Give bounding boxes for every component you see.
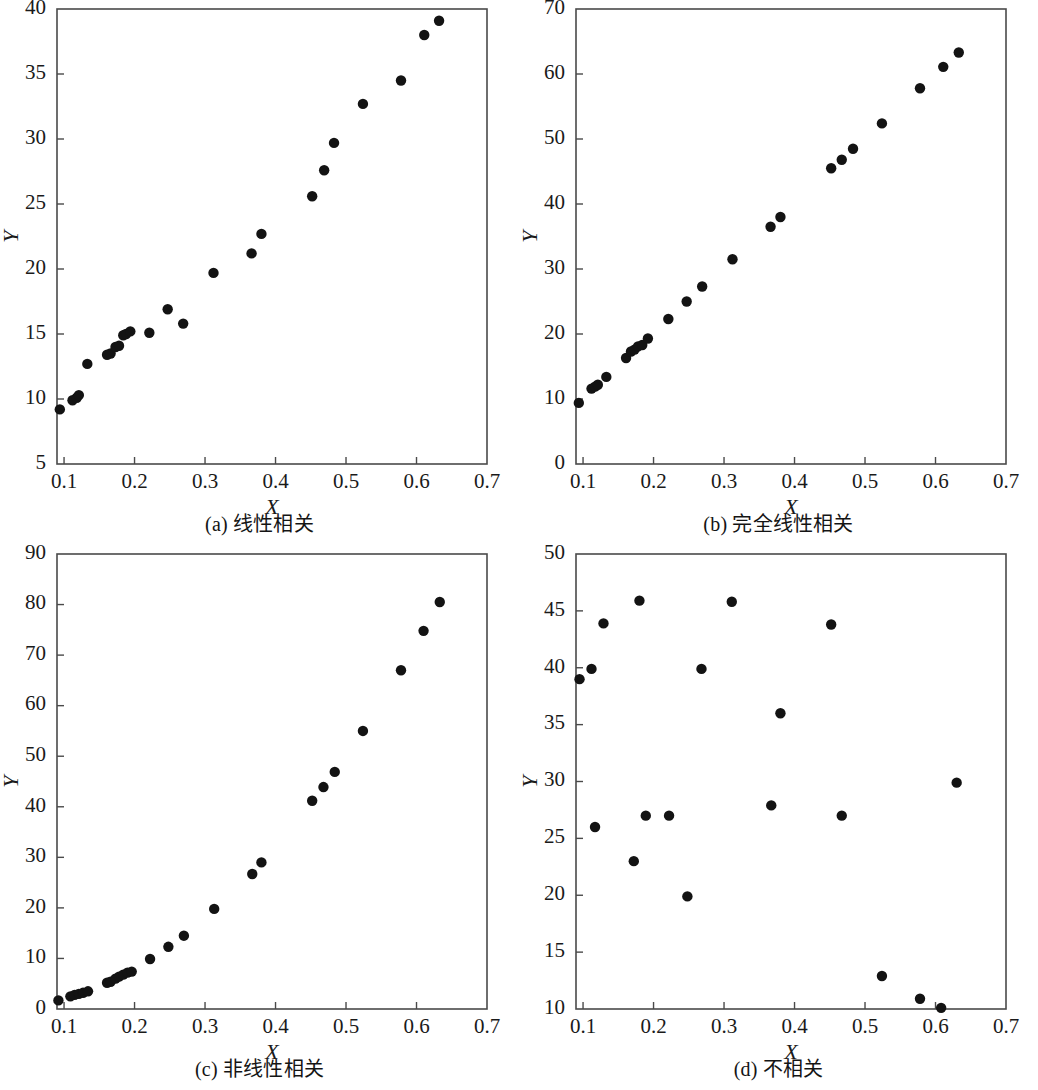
y-axis-tick-label: 30 — [544, 255, 565, 279]
data-point — [826, 619, 836, 629]
data-point — [643, 333, 653, 343]
data-point — [574, 398, 584, 408]
data-point — [396, 665, 406, 675]
data-point — [178, 318, 188, 328]
y-axis-tick-label: 35 — [25, 60, 46, 84]
data-point — [681, 296, 691, 306]
y-axis-tick-label: 45 — [544, 597, 565, 621]
x-axis-tick-label: 0.4 — [781, 1014, 808, 1038]
plot-frame — [57, 9, 487, 464]
data-point — [144, 328, 154, 338]
panel-c: 01020304050607080900.10.20.30.40.50.60.7… — [0, 545, 519, 1090]
x-axis-tick-label: 0.7 — [993, 469, 1019, 493]
figure-grid: 5101520253035400.10.20.30.40.50.60.7XY (… — [0, 0, 1038, 1090]
data-point — [766, 800, 776, 810]
data-point — [837, 810, 847, 820]
x-axis-tick-label: 0.3 — [711, 1014, 737, 1038]
y-axis-tick-label: 0 — [36, 995, 47, 1019]
data-point — [127, 966, 137, 976]
data-point — [246, 248, 256, 258]
data-point — [826, 163, 836, 173]
data-point — [574, 674, 584, 684]
data-point — [727, 254, 737, 264]
x-axis-tick-label: 0.1 — [51, 1014, 77, 1038]
x-axis-tick-label: 0.1 — [570, 469, 596, 493]
panel-d: 1015202530354045500.10.20.30.40.50.60.7X… — [519, 545, 1038, 1090]
panel-d-caption: (d) 不相关 — [519, 1053, 1038, 1082]
data-point — [83, 986, 93, 996]
data-point — [53, 995, 63, 1005]
data-point — [697, 281, 707, 291]
y-axis-tick-label: 20 — [544, 320, 565, 344]
x-axis-tick-label: 0.5 — [333, 1014, 359, 1038]
data-point-series — [55, 16, 445, 415]
y-axis-tick-label: 60 — [544, 60, 565, 84]
data-point — [915, 994, 925, 1004]
data-point — [696, 664, 706, 674]
data-point — [877, 971, 887, 981]
panel-a-caption: (a) 线性相关 — [0, 508, 519, 537]
data-point — [951, 777, 961, 787]
data-point — [319, 165, 329, 175]
y-axis-title: Y — [519, 773, 542, 788]
x-axis-tick-label: 0.1 — [51, 469, 77, 493]
x-axis-tick-label: 0.4 — [262, 469, 289, 493]
x-axis-tick-label: 0.6 — [403, 1014, 429, 1038]
data-point — [307, 191, 317, 201]
y-axis-tick-label: 70 — [25, 641, 46, 665]
data-point — [915, 83, 925, 93]
y-axis-tick-label: 70 — [544, 0, 565, 19]
y-axis-tick-label: 40 — [25, 793, 46, 817]
panel-c-caption: (c) 非线性相关 — [0, 1053, 519, 1082]
data-point — [396, 75, 406, 85]
y-axis-tick-label: 30 — [25, 125, 46, 149]
data-point-series — [574, 47, 964, 408]
data-point — [330, 767, 340, 777]
y-axis-title: Y — [0, 773, 23, 788]
data-point — [208, 268, 218, 278]
data-point — [318, 782, 328, 792]
x-axis-tick-label: 0.7 — [993, 1014, 1019, 1038]
data-point — [775, 212, 785, 222]
y-axis-tick-label: 10 — [544, 385, 565, 409]
data-point — [418, 626, 428, 636]
data-point — [114, 341, 124, 351]
data-point — [664, 810, 674, 820]
data-point — [55, 404, 65, 414]
y-axis-tick-label: 50 — [25, 742, 46, 766]
y-axis-tick-label: 30 — [544, 767, 565, 791]
x-axis-tick-label: 0.5 — [852, 1014, 878, 1038]
y-axis-tick-label: 35 — [544, 710, 565, 734]
data-point-series — [53, 597, 445, 1006]
x-axis-tick-label: 0.3 — [192, 1014, 218, 1038]
x-axis-tick-label: 0.3 — [192, 469, 218, 493]
data-point — [938, 62, 948, 72]
data-point — [419, 30, 429, 40]
y-axis-tick-label: 25 — [25, 190, 46, 214]
y-axis-tick-label: 10 — [544, 995, 565, 1019]
y-axis-tick-label: 20 — [25, 894, 46, 918]
y-axis-tick-label: 20 — [25, 255, 46, 279]
data-point — [629, 856, 639, 866]
y-axis-tick-label: 30 — [25, 843, 46, 867]
panel-a: 5101520253035400.10.20.30.40.50.60.7XY (… — [0, 0, 519, 545]
x-axis-tick-label: 0.2 — [640, 1014, 666, 1038]
y-axis-tick-label: 10 — [25, 385, 46, 409]
x-axis-tick-label: 0.5 — [333, 469, 359, 493]
x-axis-tick-label: 0.3 — [711, 469, 737, 493]
data-point — [775, 708, 785, 718]
data-point — [590, 822, 600, 832]
data-point — [435, 597, 445, 607]
y-axis-tick-label: 0 — [555, 450, 566, 474]
x-axis-tick-label: 0.4 — [781, 469, 808, 493]
panel-b-plot: 0102030405060700.10.20.30.40.50.60.7XY — [519, 0, 1038, 545]
data-point — [125, 326, 135, 336]
data-point — [634, 595, 644, 605]
y-axis-tick-label: 50 — [544, 125, 565, 149]
data-point — [601, 372, 611, 382]
data-point — [593, 380, 603, 390]
x-axis-tick-label: 0.2 — [121, 469, 147, 493]
data-point — [74, 390, 84, 400]
data-point — [163, 942, 173, 952]
data-point — [256, 229, 266, 239]
